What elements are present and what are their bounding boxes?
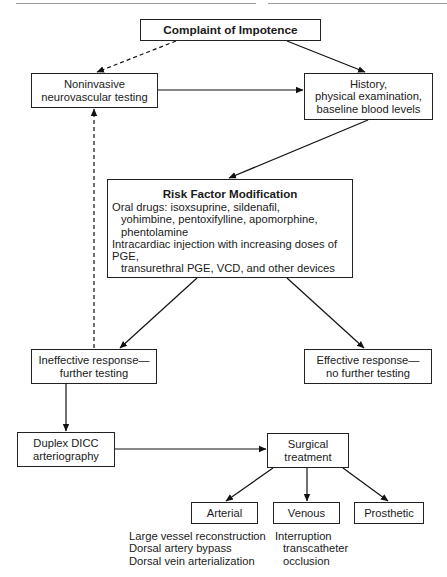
note-arterial-line1: Large vessel reconstruction [129,530,266,542]
note-venous-line3: occlusion [275,555,348,567]
node-arterial-label: Arterial [207,507,242,520]
node-prosthetic: Prosthetic [354,502,424,524]
node-arterial: Arterial [191,502,258,524]
node-noninvasive-line1: Noninvasive [64,78,125,91]
node-ineffective-line2: further testing [60,367,128,380]
arrow-complaint-to-noninvasive [97,41,176,72]
node-surgical-line1: Surgical [288,438,328,451]
node-duplex-line1: Duplex DICC [33,437,98,450]
note-venous-line1: Interruption [275,530,348,542]
node-risk-line3: phentolamine [112,226,348,238]
arrow-risk-to-ineffective [120,278,197,348]
node-noninvasive-line2: neurovascular testing [41,91,147,104]
node-surgical-treatment: Surgical treatment [267,433,349,468]
node-history-line1: History, [350,78,387,91]
node-ineffective-line1: Ineffective response— [38,354,149,367]
node-complaint-label: Complaint of Impotence [163,24,297,37]
note-arterial-procedures: Large vessel reconstruction Dorsal arter… [129,530,266,567]
node-surgical-line2: treatment [284,451,331,464]
arrow-risk-to-effective [287,278,364,348]
node-venous-label: Venous [288,507,325,520]
note-arterial-line3: Dorsal vein arterialization [129,555,266,567]
node-prosthetic-label: Prosthetic [364,507,414,520]
node-history-line2: physical examination, [315,90,422,103]
node-effective-response: Effective response— no further testing [304,349,432,384]
node-duplex-line2: arteriography [33,450,99,463]
node-history-line3: baseline blood levels [317,103,421,116]
node-risk-title: Risk Factor Modification [112,188,348,200]
node-noninvasive: Noninvasive neurovascular testing [31,73,158,108]
node-effective-line1: Effective response— [316,354,419,367]
node-duplex-arteriography: Duplex DICC arteriography [17,432,115,467]
arrow-surgical-to-arterial [226,468,273,501]
node-complaint: Complaint of Impotence [140,19,321,41]
node-venous: Venous [273,502,340,524]
node-effective-line2: no further testing [326,367,410,380]
arrow-surgical-to-prosthetic [343,468,388,501]
arrow-complaint-to-history [287,41,365,72]
note-venous-procedures: Interruption transcatheter occlusion [275,530,348,567]
note-venous-line2: transcatheter [275,542,348,554]
node-history: History, physical examination, baseline … [304,73,433,120]
arrow-history-to-risk [229,120,368,178]
node-risk-line5: transurethral PGE, VCD, and other device… [112,262,348,274]
node-risk-line1: Oral drugs: isoxsuprine, sildenafil, [112,201,348,213]
node-risk-line4: Intracardiac injection with increasing d… [112,238,348,262]
node-risk-factor-modification: Risk Factor Modification Oral drugs: iso… [107,179,353,278]
node-ineffective-response: Ineffective response— further testing [31,349,157,384]
node-risk-line2: yohimbine, pentoxifylline, apomorphine, [112,213,348,225]
note-arterial-line2: Dorsal artery bypass [129,542,266,554]
